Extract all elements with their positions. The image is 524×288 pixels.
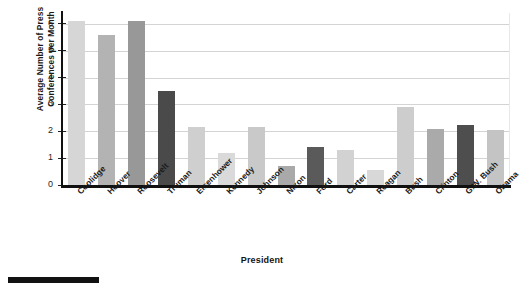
plot-right-edge xyxy=(509,13,510,186)
y-axis-tick-label: 3 xyxy=(23,98,53,108)
footer-rule xyxy=(8,277,99,283)
bar[interactable] xyxy=(427,129,444,185)
y-axis-tick-label: 6 xyxy=(23,18,53,28)
bars-layer xyxy=(62,13,510,185)
bar[interactable] xyxy=(68,21,85,185)
bar[interactable] xyxy=(98,35,115,186)
press-conferences-bar-chart: Average Number of Press Conferences per … xyxy=(0,0,524,288)
y-axis-tick-label: 0 xyxy=(23,179,53,189)
y-axis-tick-label: 1 xyxy=(23,152,53,162)
x-axis-tick-labels: CoolidgeHooverRooseveltTrumanEisenhowerK… xyxy=(62,189,510,251)
y-axis-line xyxy=(61,11,63,187)
bar[interactable] xyxy=(128,21,145,185)
x-axis-title: President xyxy=(0,255,524,265)
y-axis-tick-label: 4 xyxy=(23,72,53,82)
y-axis-tick-label: 2 xyxy=(23,125,53,135)
plot-area xyxy=(62,13,510,185)
y-axis-tick-label: 5 xyxy=(23,45,53,55)
